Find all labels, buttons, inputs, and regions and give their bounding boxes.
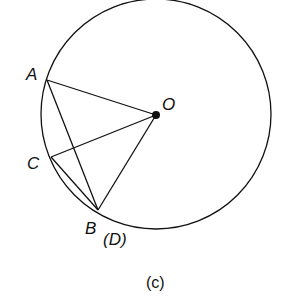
caption: (c) [146, 274, 165, 291]
label-o: O [162, 95, 175, 114]
center-point [152, 111, 160, 119]
label-c: C [27, 154, 40, 173]
segment-ob [98, 115, 156, 210]
label-b: B [85, 219, 96, 238]
segment-ao [47, 80, 156, 115]
segment-cb [51, 157, 98, 210]
circle-diagram: A O C B (D) (c) [0, 0, 283, 305]
label-a: A [25, 65, 37, 84]
label-d: (D) [103, 230, 127, 249]
segment-co [51, 115, 156, 157]
segment-ab [47, 80, 98, 210]
